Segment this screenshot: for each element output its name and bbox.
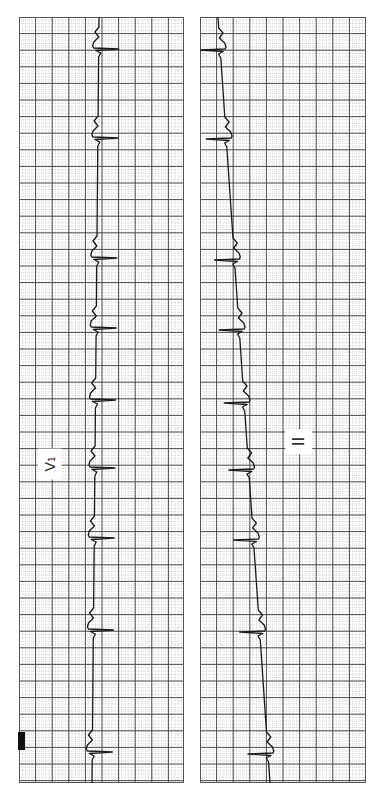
ecg-strip-lead-ii	[200, 17, 366, 783]
ecg-grid-and-trace-v1	[19, 17, 184, 783]
ecg-grid-and-trace-ii	[200, 17, 366, 783]
ecg-trace	[86, 17, 118, 783]
ecg-trace	[200, 17, 274, 783]
lead-label-ii: II	[285, 429, 312, 454]
calibration-mark	[18, 732, 25, 750]
lead-label-v1: V₁	[38, 448, 62, 479]
ecg-strip-lead-v1	[19, 17, 184, 783]
